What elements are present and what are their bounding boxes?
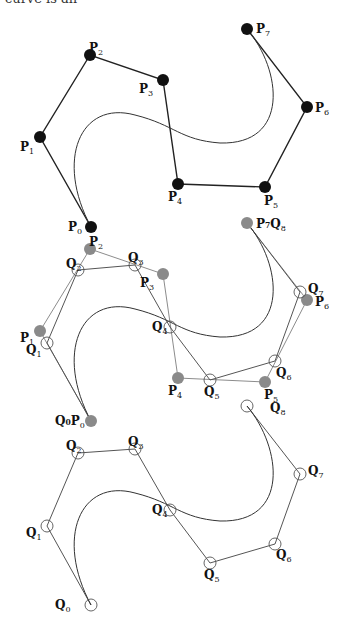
point-label: P0 bbox=[68, 220, 82, 236]
point-label: Q5 bbox=[204, 568, 220, 584]
point-label: Q4 bbox=[152, 503, 168, 519]
point-label: P7 bbox=[256, 22, 270, 38]
point-label: Q7 bbox=[308, 282, 324, 298]
control-point-p7 bbox=[241, 23, 253, 35]
control-point-p1 bbox=[34, 131, 46, 143]
control-point-p5 bbox=[259, 181, 271, 193]
point-label: Q4 bbox=[152, 320, 168, 336]
control-point-p4 bbox=[172, 372, 184, 384]
control-point-p6 bbox=[301, 101, 313, 113]
point-label: P2 bbox=[89, 235, 103, 251]
point-label: P4 bbox=[168, 190, 182, 206]
point-label: Q7 bbox=[308, 464, 324, 480]
control-point-p1 bbox=[34, 325, 46, 337]
control-point-pq8 bbox=[241, 217, 253, 229]
point-label: P₇Q8 bbox=[256, 217, 286, 233]
point-label: Q3 bbox=[128, 435, 144, 451]
point-label: Q₀P0 bbox=[55, 414, 85, 430]
point-label: Q6 bbox=[276, 366, 292, 382]
point-label: Q8 bbox=[270, 401, 286, 417]
control-point-p5 bbox=[259, 376, 271, 388]
panel-original-control-polygon: P0P1P2P3P4P5P6P7 bbox=[20, 22, 329, 236]
point-label: P6 bbox=[315, 101, 329, 117]
control-point-p4 bbox=[172, 178, 184, 190]
point-label: P4 bbox=[168, 384, 182, 400]
control-point-p0 bbox=[85, 221, 97, 233]
point-label: Q5 bbox=[204, 385, 220, 401]
point-label: Q1 bbox=[26, 526, 42, 542]
bezier-degree-elevation-diagram: P0P1P2P3P4P5P6P7 Q₀P0P1Q1P2Q2Q3P3Q4P4Q5P… bbox=[0, 0, 346, 626]
control-point-qp0 bbox=[85, 415, 97, 427]
point-label: P2 bbox=[89, 41, 103, 57]
point-label: Q3 bbox=[128, 251, 144, 267]
point-label: P3 bbox=[140, 276, 154, 292]
point-label: Q6 bbox=[276, 548, 292, 564]
point-label: Q2 bbox=[66, 439, 82, 455]
point-label: P3 bbox=[139, 82, 153, 98]
point-label: P5 bbox=[264, 194, 278, 210]
point-label: Q1 bbox=[26, 343, 42, 359]
control-point-p3 bbox=[157, 268, 169, 280]
point-label: Q0 bbox=[55, 598, 71, 614]
panel-elevated-control-polygon: Q0Q1Q2Q3Q4Q5Q6Q7 bbox=[26, 406, 324, 614]
point-label: P1 bbox=[20, 140, 34, 156]
panel-degree-elevation-overlay: Q₀P0P1Q1P2Q2Q3P3Q4P4Q5P5Q6P6Q7P₇Q8Q8 bbox=[20, 217, 329, 430]
control-point-p3 bbox=[157, 74, 169, 86]
point-label: Q2 bbox=[66, 257, 82, 273]
